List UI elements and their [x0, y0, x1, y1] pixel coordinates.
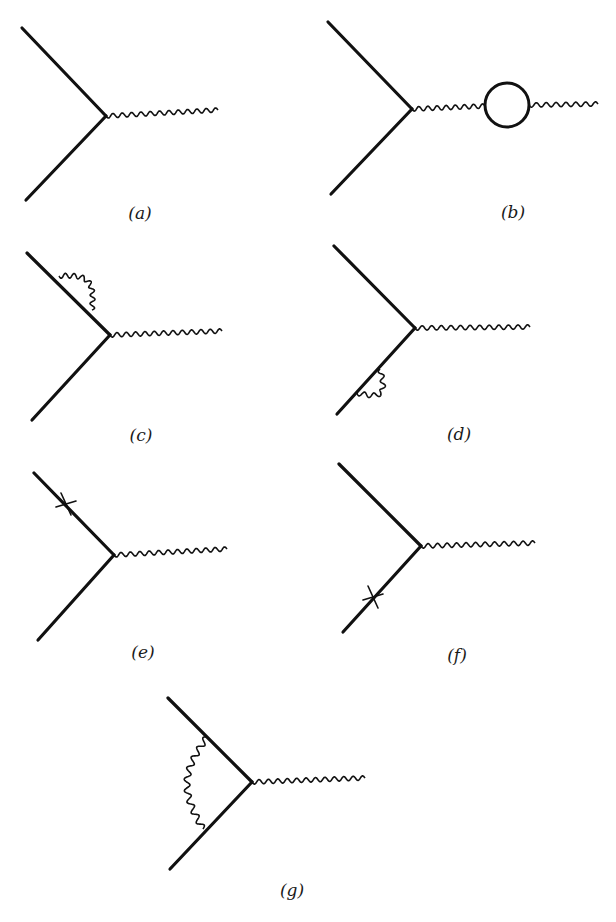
feynman-diagram-figure: [0, 0, 616, 922]
label-e: (e): [131, 642, 154, 662]
diagram-c-self-energy-incoming: [27, 253, 222, 420]
label-f: (f): [447, 645, 467, 665]
fermion-line-incoming: [34, 473, 114, 555]
photon-line: [110, 329, 222, 337]
photon-line-outgoing: [529, 102, 598, 107]
fermion-line-outgoing: [32, 335, 110, 420]
fermion-line-outgoing: [26, 116, 106, 200]
diagram-e-counterterm-incoming: [34, 473, 227, 640]
diagram-a-tree-vertex: [22, 28, 218, 200]
diagram-d-self-energy-outgoing: [334, 246, 530, 414]
self-energy-photon-loop: [357, 369, 385, 398]
label-c: (c): [130, 425, 153, 445]
fermion-line-incoming: [22, 28, 106, 116]
label-g: (g): [280, 880, 304, 900]
fermion-line-incoming: [27, 253, 110, 335]
fermion-line-outgoing: [38, 555, 114, 640]
photon-line: [114, 547, 227, 557]
diagram-b-vacuum-polarization: [328, 22, 598, 194]
diagram-f-counterterm-outgoing: [339, 464, 535, 632]
label-a: (a): [128, 203, 151, 223]
fermion-loop-bubble: [485, 83, 529, 127]
fermion-line-incoming: [168, 698, 252, 782]
label-d: (d): [447, 424, 471, 444]
internal-photon-exchange: [184, 737, 207, 829]
fermion-line-outgoing: [331, 109, 412, 194]
fermion-line-incoming: [334, 246, 415, 328]
diagram-g-vertex-correction: [168, 698, 365, 869]
fermion-line-outgoing: [343, 546, 421, 632]
photon-line: [415, 325, 530, 330]
fermion-line-outgoing: [170, 782, 252, 869]
photon-line: [252, 776, 365, 784]
fermion-line-incoming: [339, 464, 421, 546]
photon-line: [412, 104, 485, 111]
label-b: (b): [501, 202, 525, 222]
fermion-line-incoming: [328, 22, 412, 109]
fermion-line-outgoing: [337, 328, 415, 414]
photon-line: [106, 108, 218, 118]
photon-line: [421, 541, 535, 548]
